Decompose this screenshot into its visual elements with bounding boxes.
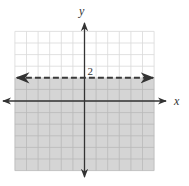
x-axis-label: x (173, 94, 180, 108)
y-axis-label: y (78, 4, 85, 18)
inequality-graph: x y 2 (0, 0, 189, 186)
boundary-value-label: 2 (88, 65, 94, 77)
